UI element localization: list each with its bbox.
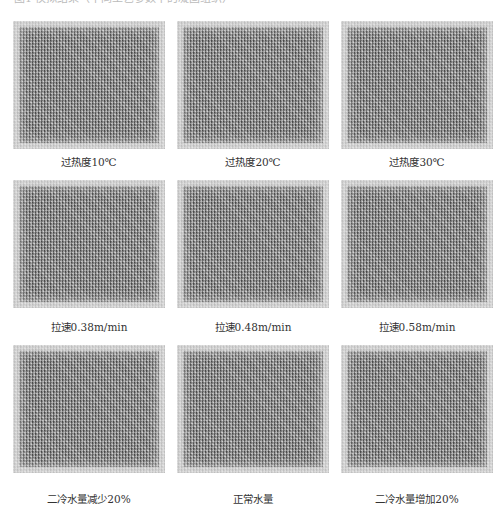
caption: 拉速0.48m/min [173, 319, 333, 334]
microstructure-image [13, 345, 165, 473]
panel-water-normal [177, 345, 329, 473]
caption: 二冷水量增加20% [337, 491, 497, 506]
caption: 正常水量 [173, 491, 333, 506]
microstructure-image [177, 21, 329, 149]
caption: 二冷水量减少20% [9, 491, 169, 506]
panel-speed-048 [177, 180, 329, 308]
panel-speed-058 [341, 180, 493, 308]
microstructure-image [177, 345, 329, 473]
microstructure-image [341, 180, 493, 308]
microstructure-image [13, 180, 165, 308]
microstructure-image [341, 21, 493, 149]
partial-top-text: 图1 模拟结果（不同工艺参数下的凝固组织） [14, 0, 314, 4]
panel-speed-038 [13, 180, 165, 308]
microstructure-image [177, 180, 329, 308]
caption: 拉速0.58m/min [337, 319, 497, 334]
microstructure-image [13, 21, 165, 149]
microstructure-image [341, 345, 493, 473]
caption: 拉速0.38m/min [9, 319, 169, 334]
panel-water-plus-20 [341, 345, 493, 473]
panel-superheat-20 [177, 21, 329, 149]
caption: 过热度30℃ [337, 154, 497, 169]
caption: 过热度10℃ [9, 154, 169, 169]
panel-superheat-10 [13, 21, 165, 149]
panel-water-minus-20 [13, 345, 165, 473]
caption: 过热度20℃ [173, 154, 333, 169]
panel-superheat-30 [341, 21, 493, 149]
